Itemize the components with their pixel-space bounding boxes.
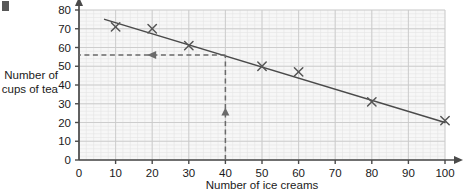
y-axis-title-line1: Number of (4, 69, 58, 81)
x-tick-label: 30 (182, 167, 195, 179)
scatter-chart: 010203040506070809010001020304050607080 … (0, 0, 463, 193)
x-tick-label: 40 (219, 167, 232, 179)
x-tick-label: 70 (329, 167, 342, 179)
x-tick-label: 60 (292, 167, 305, 179)
x-axis-title: Number of ice creams (206, 179, 319, 191)
y-tick-label: 60 (58, 42, 71, 54)
x-tick-label: 100 (435, 167, 454, 179)
y-tick-label: 50 (58, 60, 71, 72)
y-tick-label: 20 (58, 117, 71, 129)
x-tick-label: 10 (109, 167, 122, 179)
y-tick-label: 30 (58, 98, 71, 110)
x-tick-label: 50 (256, 167, 269, 179)
y-axis-title-line2: cups of tea (2, 83, 59, 95)
y-tick-label: 0 (65, 154, 71, 166)
x-tick-label: 0 (76, 167, 82, 179)
y-tick-label: 10 (58, 135, 71, 147)
x-tick-label: 20 (146, 167, 159, 179)
x-tick-label: 80 (365, 167, 378, 179)
y-tick-label: 80 (58, 4, 71, 16)
x-tick-label: 90 (402, 167, 415, 179)
y-tick-label: 70 (58, 23, 71, 35)
y-tick-label: 40 (58, 79, 71, 91)
